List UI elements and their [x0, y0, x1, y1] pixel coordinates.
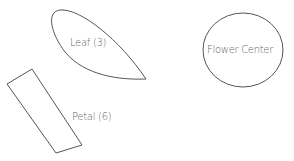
petal-shape[interactable]: Petal (6) [7, 69, 111, 153]
leaf-shape[interactable]: Leaf (3) [52, 10, 146, 79]
leaf-label: Leaf (3) [70, 37, 106, 48]
flower-center-shape[interactable]: Flower Center [203, 13, 283, 87]
flower-center-label: Flower Center [207, 44, 274, 55]
diagram-canvas: Leaf (3) Flower Center Petal (6) [0, 0, 294, 161]
petal-outline[interactable] [7, 69, 82, 153]
petal-label: Petal (6) [72, 111, 111, 122]
